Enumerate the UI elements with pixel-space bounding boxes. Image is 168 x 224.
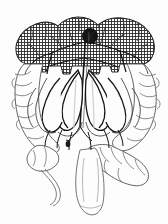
appendix (41, 169, 60, 206)
anatomy-figure (0, 0, 168, 224)
mesenteric-arcade-left (42, 70, 82, 132)
secondary-marker (66, 140, 71, 147)
anatomy-illustration-svg (0, 0, 168, 224)
mesenteric-arcade-right (85, 70, 125, 132)
rectum (76, 148, 104, 215)
